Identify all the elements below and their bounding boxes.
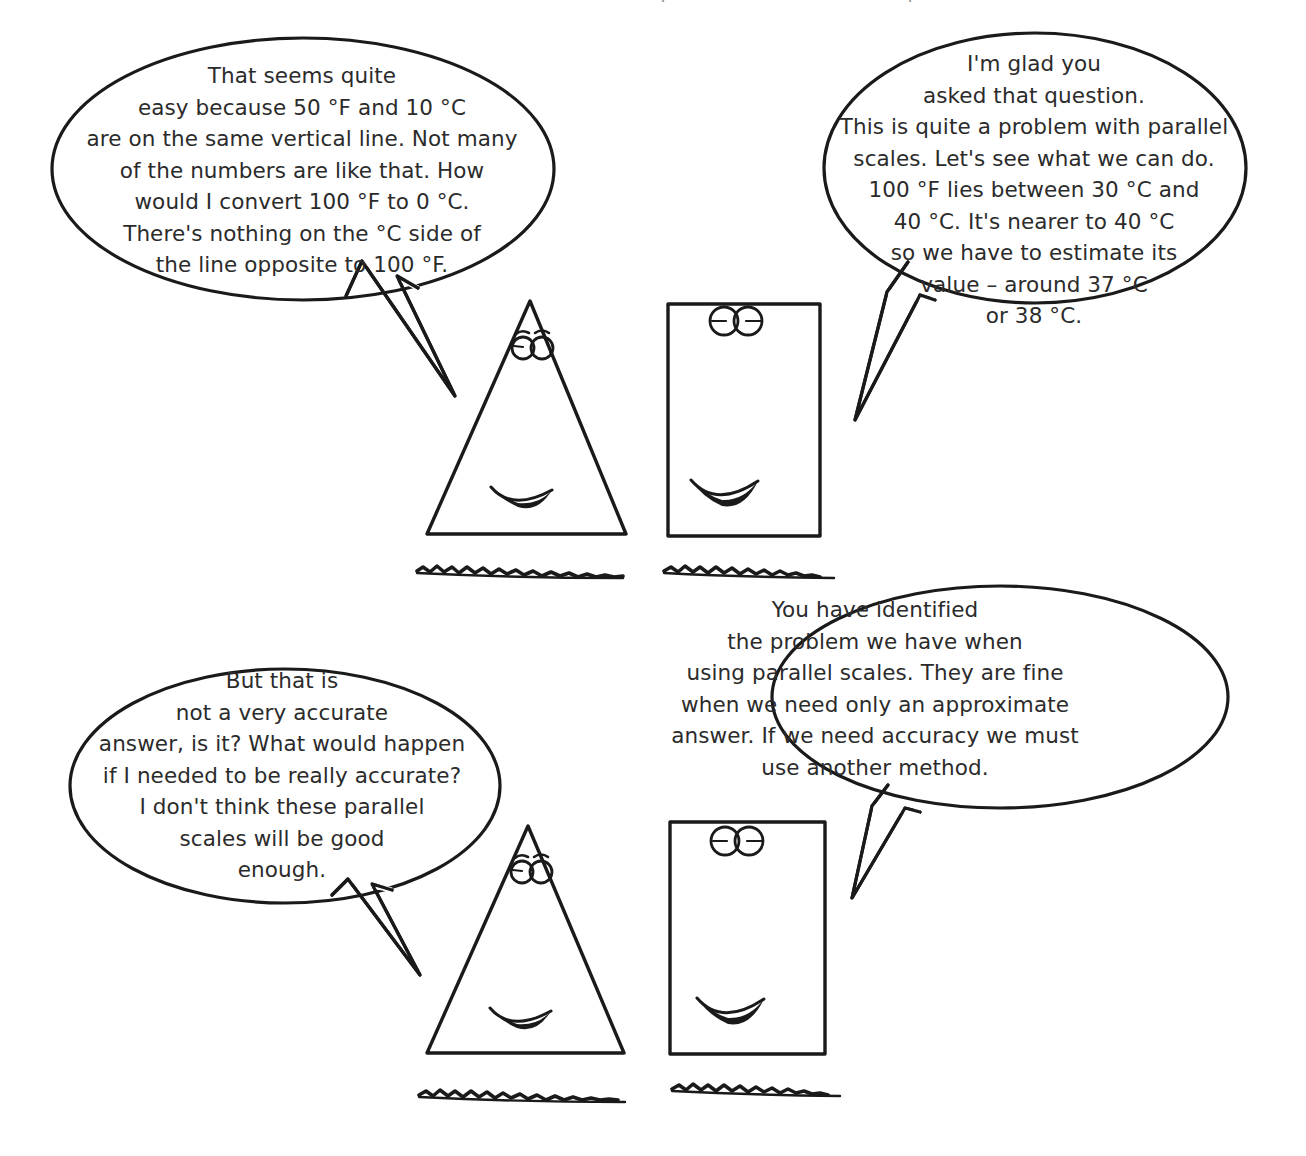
triangle-smile-top xyxy=(491,487,552,508)
bubble-bottom-right-tail-stroke xyxy=(852,785,920,898)
rectangle-character-top xyxy=(668,304,820,536)
ground-line-triangle-top xyxy=(417,566,623,578)
triangle-body-bottom xyxy=(427,826,624,1053)
bubble-bottom-right-outline xyxy=(772,586,1228,808)
triangle-right-pupil-bottom xyxy=(548,874,552,878)
bubble-bottom-left xyxy=(70,669,500,975)
bubble-bottom-left-outline xyxy=(70,669,500,903)
comic-page: ı ı .ink { fill: none; stroke: #1a1a1a; … xyxy=(0,0,1306,1156)
ground-line-rectangle-bottom xyxy=(672,1084,840,1096)
triangle-character-bottom xyxy=(427,826,624,1053)
bubble-top-left-tail-stroke xyxy=(346,261,455,396)
bubble-bottom-left-tail-stroke xyxy=(332,879,420,975)
triangle-left-pupil-line-bottom xyxy=(513,870,522,871)
triangle-left-eyebrow-top xyxy=(516,331,529,334)
bubble-bottom-right xyxy=(772,586,1228,898)
triangle-left-eyebrow-bottom xyxy=(515,855,528,858)
rectangle-character-bottom xyxy=(670,822,825,1054)
rectangle-body-top xyxy=(668,304,820,536)
triangle-smile-bottom xyxy=(490,1008,551,1029)
triangle-character-top xyxy=(427,301,626,534)
ground-line-triangle-bottom xyxy=(419,1090,625,1102)
bubble-top-right-outline xyxy=(824,33,1246,303)
ground-line-rectangle-top xyxy=(664,566,834,578)
bubble-top-right xyxy=(824,33,1246,420)
bubble-top-right-tail-stroke xyxy=(855,262,935,420)
comic-artwork: .ink { fill: none; stroke: #1a1a1a; stro… xyxy=(0,0,1306,1156)
bubble-top-left xyxy=(52,38,554,396)
triangle-left-pupil-line-top xyxy=(514,346,523,347)
bubble-top-left-outline xyxy=(52,38,554,300)
triangle-right-pupil-top xyxy=(549,350,553,354)
